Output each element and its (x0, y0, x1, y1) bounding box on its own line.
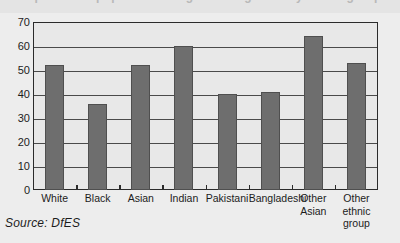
bar (304, 36, 323, 190)
bar-chart: 010203040506070 WhiteBlackAsianIndianPak… (0, 13, 400, 211)
bar (88, 104, 107, 190)
x-axis-category-label: White (33, 192, 76, 205)
x-axis-tick (76, 185, 78, 190)
bar (218, 94, 237, 190)
bar (261, 92, 280, 190)
bars-layer (33, 22, 378, 190)
x-axis-tick (249, 185, 251, 190)
y-axis-tick-label: 60 (4, 41, 30, 52)
bar (131, 65, 150, 190)
x-axis-category-label: Pakistani (206, 192, 249, 205)
bar (347, 63, 366, 190)
x-axis-category-label: Indian (162, 192, 205, 205)
x-axis-category-label: Other ethnic group (335, 192, 378, 230)
x-axis-category-label: Black (76, 192, 119, 205)
cropped-title-strip: Proportion of pupils achieving 5+ A*-C g… (0, 0, 400, 13)
title-ghost-text: Proportion of pupils achieving 5+ A*-C g… (14, 0, 381, 3)
x-axis-tick (162, 185, 164, 190)
x-axis-tick (119, 185, 121, 190)
x-axis-category-label: Other Asian (292, 192, 335, 217)
y-axis-tick-label: 40 (4, 89, 30, 100)
x-axis-category-label: Asian (119, 192, 162, 205)
bar (45, 65, 64, 190)
y-axis-tick-label: 10 (4, 161, 30, 172)
y-axis: 010203040506070 (0, 22, 30, 190)
y-axis-tick-label: 20 (4, 137, 30, 148)
y-axis-tick-label: 70 (4, 17, 30, 28)
x-axis-labels: WhiteBlackAsianIndianPakistaniBangladesh… (33, 192, 378, 228)
y-axis-tick-label: 30 (4, 113, 30, 124)
y-axis-tick-label: 0 (4, 185, 30, 196)
y-axis-tick-label: 50 (4, 65, 30, 76)
x-axis-tick (292, 185, 294, 190)
x-axis-tick (206, 185, 208, 190)
bar (174, 46, 193, 190)
x-axis-tick (335, 185, 337, 190)
x-axis-category-label: Bangladeshi (249, 192, 292, 205)
source-note: Source: DfES (5, 216, 80, 230)
